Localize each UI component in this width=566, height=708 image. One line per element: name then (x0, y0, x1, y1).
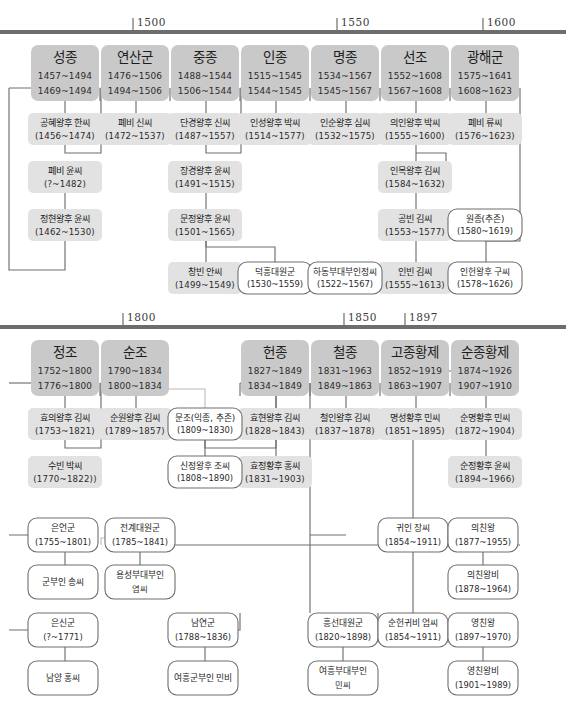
relative-node[interactable]: 남연군(1788~1836) (168, 613, 238, 647)
relative-dates: (1854~1911) (385, 632, 441, 642)
king-node[interactable]: 성종1457~14941469~1494 (31, 45, 99, 101)
relative-name: 군부인 송씨 (42, 577, 85, 587)
relative-node[interactable]: 흥선대원군(1820~1898) (308, 613, 378, 647)
king-lifespan: 1457~1494 (38, 71, 93, 81)
consort-node[interactable]: 공혜왕후 한씨(1456~1474) (28, 113, 102, 145)
consort-dates: (1789~1857) (105, 426, 165, 436)
relative-node[interactable]: 귀인 장씨(1854~1911) (378, 518, 448, 552)
consort-node[interactable]: 수빈 박씨(1770~1822)) (28, 456, 102, 488)
relative-name: 의친왕비 (467, 570, 499, 580)
consort-dates: (1456~1474) (35, 131, 95, 141)
consort-node[interactable]: 인성왕후 박씨(1514~1577) (238, 113, 312, 145)
consort-node[interactable]: 효현왕후 김씨(1828~1843) (238, 408, 312, 440)
king-node[interactable]: 인종1515~15451544~1545 (241, 45, 309, 101)
consort-node[interactable]: 공빈 김씨(1553~1577) (378, 209, 452, 241)
consort-node[interactable]: 인순왕후 심씨(1532~1575) (308, 113, 382, 145)
consort-node[interactable]: 인목왕후 김씨(1584~1632) (378, 161, 452, 193)
consort-node[interactable]: 철인왕후 김씨(1837~1878) (308, 408, 382, 440)
consort-node[interactable]: 폐비 신씨(1472~1537) (98, 113, 172, 145)
relative-node[interactable]: 하동부대부인정씨(1522~1567) (308, 262, 382, 294)
relative-dates: 염씨 (132, 584, 148, 594)
consort-node[interactable]: 인빈 김씨(1555~1613) (378, 262, 452, 294)
relative-dates: (1878~1964) (455, 584, 511, 594)
king-node[interactable]: 연산군1476~15061494~1506 (101, 45, 169, 101)
relative-name: 남연군 (191, 618, 215, 628)
king-node[interactable]: 순조1790~18341800~1834 (101, 340, 169, 396)
king-node[interactable]: 철종1831~19631849~1863 (311, 340, 379, 396)
relative-node[interactable]: 영친왕(1897~1970) (448, 613, 518, 647)
consort-node[interactable]: 창빈 안씨(1499~1549) (168, 262, 242, 294)
king-reign: 1776~1800 (38, 381, 93, 391)
relative-node[interactable]: 의친왕(1877~1955) (448, 518, 518, 552)
consort-dates: (1828~1843) (245, 426, 305, 436)
relative-node[interactable]: 문조(익종, 추존)(1809~1830) (168, 408, 242, 440)
consort-node[interactable]: 효의왕후 김씨(1753~1821) (28, 408, 102, 440)
relative-node[interactable]: 은언군(1755~1801) (28, 518, 98, 552)
timeline-label: 1800 (127, 311, 156, 323)
king-node[interactable]: 광해군1575~16411608~1623 (451, 45, 519, 101)
relative-name: 의친왕 (471, 523, 495, 533)
relative-node[interactable]: 영친왕비(1901~1989) (448, 661, 518, 695)
king-node[interactable]: 정조1752~18001776~1800 (31, 340, 99, 396)
king-node[interactable]: 중종1488~15441506~1544 (171, 45, 239, 101)
relative-dates: (1820~1898) (315, 632, 371, 642)
consort-node[interactable]: 명성황후 민씨(1851~1895) (378, 408, 452, 440)
consort-node[interactable]: 장경왕후 윤씨(1491~1515) (168, 161, 242, 193)
relative-name: 원종(추존) (466, 214, 505, 224)
consort-node[interactable]: 의인왕후 박씨(1555~1600) (378, 113, 452, 145)
consort-name: 인빈 김씨 (398, 266, 433, 277)
king-node[interactable]: 선조1552~16081567~1608 (381, 45, 449, 101)
king-reign: 1494~1506 (108, 86, 163, 96)
relative-node[interactable]: 의친왕비(1878~1964) (448, 565, 518, 599)
consort-node[interactable]: 효정황후 홍씨(1831~1903) (238, 456, 312, 488)
consort-node[interactable]: 단경왕후 신씨(1487~1557) (168, 113, 242, 145)
consort-node[interactable]: 순정황후 윤씨(1894~1966) (448, 456, 522, 488)
king-node[interactable]: 명종1534~15671545~1567 (311, 45, 379, 101)
king-name: 명종 (333, 49, 357, 65)
consort-node[interactable]: 폐비 윤씨(?~1482) (28, 161, 102, 193)
consort-dates: (1472~1537) (105, 131, 165, 141)
king-node[interactable]: 순종황제1874~19261907~1910 (451, 340, 519, 396)
relative-node[interactable]: 군부인 송씨 (28, 565, 98, 599)
timeline-bar (0, 30, 566, 34)
consort-node[interactable]: 폐비 류씨(1576~1623) (448, 113, 522, 145)
relative-name: 여흥군부인 민비 (174, 672, 233, 683)
relative-node[interactable]: 여흥부대부인민씨 (308, 661, 378, 695)
relative-dates: (1755~1801) (35, 537, 91, 547)
king-reign: 1863~1907 (388, 381, 442, 391)
relative-node[interactable]: 순헌귀비 엄씨(1854~1911) (378, 613, 448, 647)
king-node[interactable]: 헌종1827~18491834~1849 (241, 340, 309, 396)
consort-node[interactable]: 순원왕후 김씨(1789~1857) (98, 408, 172, 440)
timeline-top: 150015501600 (0, 16, 566, 34)
consort-name: 창빈 안씨 (188, 266, 223, 277)
king-name: 고종황제 (391, 344, 439, 360)
relative-dates: (1877~1955) (455, 537, 511, 547)
consort-node[interactable]: 문정왕후 윤씨(1501~1565) (168, 209, 242, 241)
relative-node[interactable]: 덕흥대원군(1530~1559) (238, 262, 312, 294)
king-lifespan: 1752~1800 (38, 366, 93, 376)
consort-name: 효현왕후 김씨 (250, 412, 301, 423)
king-name: 연산군 (117, 49, 153, 65)
relative-node[interactable]: 은신군(?~1771) (28, 613, 98, 647)
relative-name: 용성부대부인 (116, 570, 164, 580)
king-reign: 1907~1910 (458, 381, 513, 391)
relative-dates: (1578~1626) (457, 279, 513, 289)
relative-node[interactable]: 인헌왕후 구씨(1578~1626) (448, 262, 522, 294)
relative-node[interactable]: 원종(추존)(1580~1619) (448, 209, 522, 241)
relative-dates: (1901~1989) (455, 680, 511, 690)
king-node[interactable]: 고종황제1852~19191863~1907 (381, 340, 449, 396)
timeline-label: 1550 (341, 16, 370, 28)
relative-node[interactable]: 전계대원군(1785~1841) (105, 518, 175, 552)
relative-node[interactable]: 신정왕후 조씨(1808~1890) (168, 456, 242, 488)
consort-node[interactable]: 정현왕후 윤씨(1462~1530) (28, 209, 102, 241)
timeline-label: 1500 (137, 16, 166, 28)
relative-dates: (?~1771) (43, 632, 82, 642)
consort-dates: (1462~1530) (35, 227, 95, 237)
relative-node[interactable]: 여흥군부인 민비 (168, 661, 238, 695)
relative-dates: (1808~1890) (177, 473, 233, 483)
relative-node[interactable]: 용성부대부인염씨 (105, 565, 175, 599)
relative-node[interactable]: 남양 홍씨 (28, 661, 98, 695)
consort-node[interactable]: 순명황후 민씨(1872~1904) (448, 408, 522, 440)
person-nodes-layer: 공혜왕후 한씨(1456~1474)폐비 윤씨(?~1482)정현왕후 윤씨(1… (28, 45, 522, 695)
relative-dates: (1809~1830) (177, 425, 233, 435)
